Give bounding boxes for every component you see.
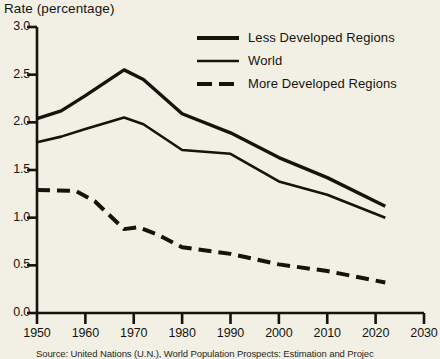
y-axis-tick-label: 1.0 — [0, 210, 30, 224]
chart-legend: Less Developed Regions World More Develo… — [196, 26, 436, 95]
x-axis-tick-label: 2020 — [353, 326, 399, 340]
y-axis-tick-label: 2.5 — [0, 67, 30, 81]
series-line — [37, 190, 385, 282]
y-axis-tick-label: 3.0 — [0, 19, 30, 33]
thick-solid-line-icon — [196, 31, 240, 45]
y-axis-tick-label: 1.5 — [0, 162, 30, 176]
x-axis-ticks — [37, 313, 424, 324]
dashed-line-icon — [196, 77, 240, 91]
x-axis-tick-label: 1990 — [208, 326, 254, 340]
y-axis-tick-label: 0.0 — [0, 305, 30, 319]
legend-label-less-developed: Less Developed Regions — [248, 30, 395, 45]
x-axis-tick-label: 1960 — [62, 326, 108, 340]
x-axis-tick-label: 2000 — [256, 326, 302, 340]
series-line — [37, 118, 385, 218]
source-note: Source: United Nations (U.N.), World Pop… — [36, 348, 374, 359]
legend-item-more-developed: More Developed Regions — [196, 72, 436, 95]
x-axis-tick-label: 1980 — [159, 326, 205, 340]
y-axis-tick-label: 0.5 — [0, 257, 30, 271]
y-axis-tick-label: 2.0 — [0, 114, 30, 128]
x-axis-tick-label: 1970 — [111, 326, 157, 340]
legend-item-world: World — [196, 49, 436, 72]
x-axis-tick-label: 1950 — [14, 326, 60, 340]
x-axis-tick-label: 2030 — [401, 326, 440, 340]
legend-label-more-developed: More Developed Regions — [248, 76, 397, 91]
x-axis-tick-label: 2010 — [304, 326, 350, 340]
thin-solid-line-icon — [196, 54, 240, 68]
legend-label-world: World — [248, 53, 282, 68]
data-series-group — [37, 70, 385, 283]
legend-item-less-developed: Less Developed Regions — [196, 26, 436, 49]
